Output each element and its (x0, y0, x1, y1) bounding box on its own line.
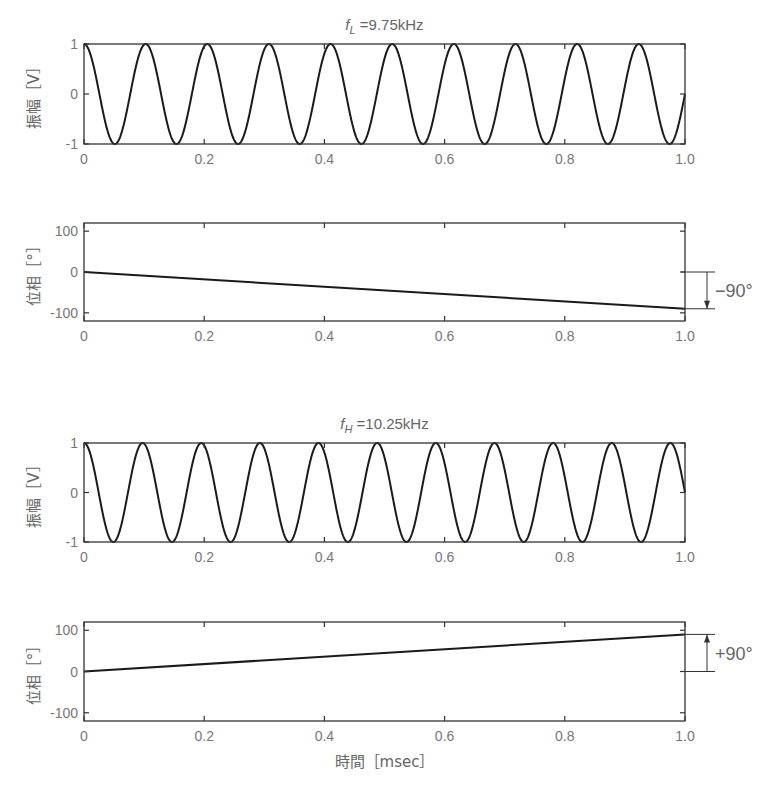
y-axis-label: 振幅［V］ (25, 457, 43, 527)
x-tick-label: 0.4 (315, 328, 335, 344)
y-tick-label: 0 (70, 485, 78, 501)
x-tick-label: 0.6 (435, 549, 455, 565)
arrow-icon (704, 301, 710, 309)
arrow-icon (704, 634, 710, 642)
x-tick-label: 0.6 (435, 151, 455, 167)
y-axis-label: 位相［°］ (25, 238, 43, 306)
x-tick-label: 0.2 (194, 728, 214, 744)
phase-shift-annotation: −90° (681, 272, 753, 309)
plot-frame (84, 622, 685, 721)
data-line (84, 44, 685, 144)
y-tick-label: 0 (70, 86, 78, 102)
y-axis-label: 振幅［V］ (25, 59, 43, 129)
x-tick-label: 0.4 (315, 728, 335, 744)
x-tick-label: 1.0 (675, 549, 695, 565)
data-line (84, 634, 685, 671)
x-tick-label: 0.8 (555, 549, 575, 565)
phase-shift-annotation: +90° (681, 634, 753, 671)
x-axis-label: 時間［msec］ (335, 753, 435, 771)
x-tick-label: 0.2 (194, 151, 214, 167)
x-tick-label: 0.8 (555, 728, 575, 744)
chart-title: fL =9.75kHz (345, 16, 423, 36)
x-tick-label: 0.8 (555, 328, 575, 344)
y-tick-label: -100 (50, 705, 78, 721)
y-axis-label: 位相［°］ (25, 638, 43, 706)
y-tick-label: -100 (50, 305, 78, 321)
figure: 00.20.40.60.81.0-101振幅［V］fL =9.75kHz 00.… (0, 0, 767, 794)
plot-amplitude-high: 00.20.40.60.81.0-101振幅［V］fH =10.25kHz (25, 415, 695, 565)
x-tick-label: 0 (80, 549, 88, 565)
data-line (84, 443, 685, 542)
plot-amplitude-low: 00.20.40.60.81.0-101振幅［V］fL =9.75kHz (25, 16, 695, 167)
x-tick-label: 0.2 (194, 328, 214, 344)
data-line (84, 272, 685, 309)
y-tick-label: 0 (70, 264, 78, 280)
x-tick-label: 1.0 (675, 328, 695, 344)
phase-shift-label: +90° (715, 644, 753, 664)
x-tick-label: 0.8 (555, 151, 575, 167)
plot-phase-high: 00.20.40.60.81.0-1000100位相［°］時間［msec］+90… (25, 622, 753, 771)
chart-title: fH =10.25kHz (340, 415, 428, 435)
x-tick-label: 0.2 (194, 549, 214, 565)
x-tick-label: 0 (80, 151, 88, 167)
x-tick-label: 1.0 (675, 151, 695, 167)
phase-shift-label: −90° (715, 281, 753, 301)
y-tick-label: 0 (70, 664, 78, 680)
y-tick-label: 100 (55, 622, 79, 638)
y-tick-label: 100 (55, 223, 79, 239)
x-tick-label: 0.6 (435, 728, 455, 744)
y-tick-label: -1 (66, 136, 79, 152)
x-tick-label: 0.4 (315, 151, 335, 167)
x-tick-label: 0 (80, 328, 88, 344)
x-tick-label: 0.4 (315, 549, 335, 565)
y-tick-label: 1 (70, 36, 78, 52)
y-tick-label: -1 (66, 534, 79, 550)
plot-phase-low: 00.20.40.60.81.0-1000100位相［°］−90° (25, 223, 753, 344)
x-tick-label: 0 (80, 728, 88, 744)
plot-frame (84, 223, 685, 321)
x-tick-label: 0.6 (435, 328, 455, 344)
x-tick-label: 1.0 (675, 728, 695, 744)
y-tick-label: 1 (70, 435, 78, 451)
